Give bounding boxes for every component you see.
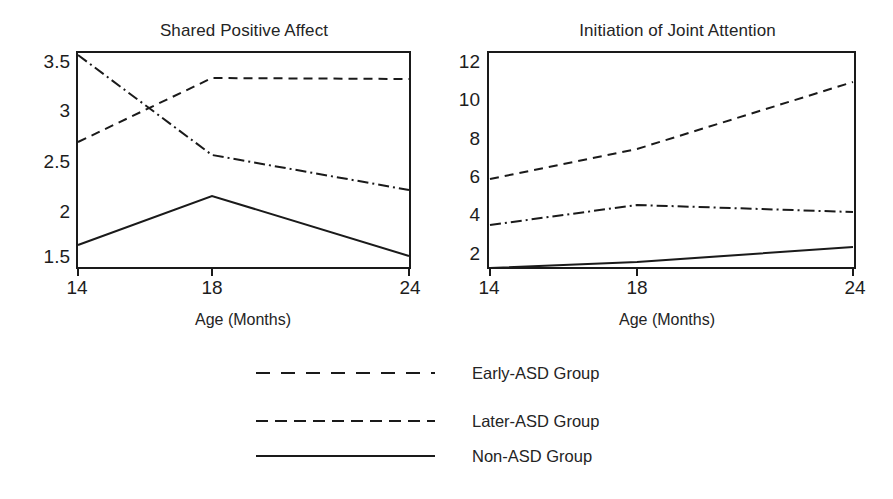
left-ytick-2.5: 2.5 <box>14 151 70 173</box>
right-ytick-8: 8 <box>428 128 480 150</box>
left-series-early-asd <box>78 78 409 142</box>
panel-title-left: Shared Positive Affect <box>103 21 385 41</box>
right-ytick-4: 4 <box>428 204 480 226</box>
panel-title-right: Initiation of Joint Attention <box>515 21 840 41</box>
right-ytick-12: 12 <box>428 51 480 73</box>
right-ytick-10: 10 <box>428 89 480 111</box>
left-series-later-asd <box>78 55 409 190</box>
left-xtick-24: 24 <box>388 277 432 299</box>
left-xtick-18: 18 <box>190 277 234 299</box>
left-ytick-2: 2 <box>14 201 70 223</box>
right-xtick-14: 14 <box>467 277 511 299</box>
right-xtick-18: 18 <box>615 277 659 299</box>
figure-container: Shared Positive Affect Initiation of Joi… <box>0 0 893 499</box>
right-plot-frame <box>488 52 855 268</box>
left-ytick-1.5: 1.5 <box>14 246 70 268</box>
right-series-non-asd <box>490 247 853 268</box>
right-series-early-asd <box>490 82 853 179</box>
right-ytick-6: 6 <box>428 166 480 188</box>
left-xtick-14: 14 <box>55 277 99 299</box>
right-series-later-asd <box>490 205 853 225</box>
left-ytick-3.5: 3.5 <box>14 51 70 73</box>
legend-label-non: Non-ASD Group <box>472 447 592 466</box>
legend-label-early: Early-ASD Group <box>472 364 599 383</box>
right-xaxis-label: Age (Months) <box>557 311 777 329</box>
left-ytick-3: 3 <box>14 100 70 122</box>
right-ytick-2: 2 <box>428 243 480 265</box>
right-xtick-24: 24 <box>833 277 877 299</box>
left-series-non-asd <box>78 196 409 256</box>
legend-label-later: Later-ASD Group <box>472 412 599 431</box>
left-xaxis-label: Age (Months) <box>133 311 353 329</box>
left-plot-frame <box>77 52 410 268</box>
